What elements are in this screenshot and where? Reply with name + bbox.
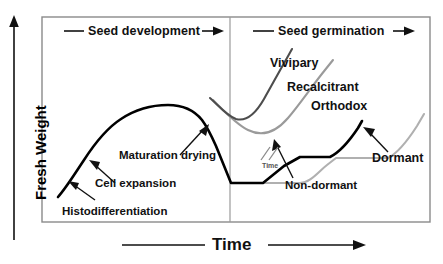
- y-axis-arrow: [9, 15, 19, 240]
- dormant-arrow: [363, 127, 388, 152]
- histodifferentiation-arrow: [68, 181, 95, 200]
- annotation-non-dormant: Non-dormant: [285, 180, 357, 192]
- diagram-canvas: [0, 0, 443, 264]
- curve-label-orthodox: Orthodox: [311, 100, 367, 113]
- curve-label-dormant: Dormant: [372, 152, 423, 165]
- y-axis-label: Fresh Weight: [32, 105, 49, 200]
- curve-label-vivipary: Vivipary: [270, 57, 318, 70]
- x-axis-label: Time: [212, 236, 251, 253]
- phase-label-seed-germination: Seed germination: [278, 25, 384, 38]
- phase-label-seed-development: Seed development: [88, 25, 200, 38]
- figure-container: Fresh Weight Time Seed development Seed …: [0, 0, 443, 264]
- annotation-maturation-drying: Maturation drying: [119, 150, 216, 162]
- time-break-label: Time: [262, 162, 278, 169]
- curve-recalcitrant: [213, 60, 333, 133]
- curve-label-recalcitrant: Recalcitrant: [287, 81, 359, 94]
- annotation-cell-expansion: Cell expansion: [95, 178, 176, 190]
- curve-dormant: [232, 114, 424, 183]
- annotation-histodifferentiation: Histodifferentiation: [62, 206, 167, 218]
